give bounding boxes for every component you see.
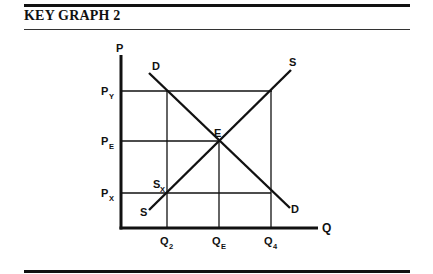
svg-text:Y: Y: [109, 92, 114, 101]
svg-text:E: E: [221, 242, 226, 251]
equilibrium-label: E: [214, 127, 221, 139]
quantity-label-qe: Q E: [212, 235, 226, 251]
supply-demand-graph: P Q P Y P E P X Q 2 Q E Q 4 D D S S E S …: [0, 0, 433, 274]
demand-label-top: D: [152, 60, 160, 72]
svg-text:Q: Q: [264, 235, 273, 247]
svg-text:Q: Q: [160, 235, 169, 247]
svg-text:P: P: [101, 187, 108, 199]
svg-text:P: P: [101, 135, 108, 147]
x-axis-label: Q: [322, 221, 331, 235]
price-label-pe: P E: [101, 135, 114, 151]
svg-text:Q: Q: [212, 235, 221, 247]
svg-text:2: 2: [169, 242, 173, 251]
quantity-label-q2: Q 2: [160, 235, 173, 251]
price-label-px: P X: [101, 187, 114, 203]
price-label-py: P Y: [101, 85, 114, 101]
svg-text:E: E: [109, 142, 114, 151]
supply-label-bottom: S: [140, 206, 147, 218]
bottom-rule: [24, 270, 410, 273]
svg-text:X: X: [109, 194, 114, 203]
svg-text:P: P: [101, 85, 108, 97]
y-axis-label: P: [116, 42, 123, 54]
svg-text:X: X: [160, 185, 165, 194]
demand-label-bottom: D: [291, 203, 299, 215]
quantity-label-q4: Q 4: [264, 235, 278, 251]
supply-label-top: S: [289, 56, 296, 68]
svg-text:4: 4: [273, 242, 278, 251]
supply-point-label: S X: [153, 178, 165, 194]
